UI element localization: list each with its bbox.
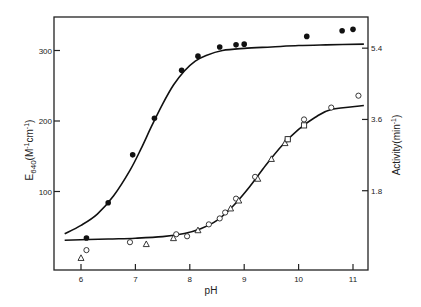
y2-axis-ticks: 1.83.65.4 [362, 44, 383, 196]
x-axis-ticks: 67891011 [79, 264, 358, 284]
x-axis-title: pH [205, 285, 218, 296]
y2-tick-label: 1.8 [371, 187, 383, 196]
filled-circle-marker [233, 42, 239, 48]
open-triangle-marker [78, 255, 84, 261]
y2-tick-label: 5.4 [371, 44, 383, 53]
open-square-marker [301, 123, 306, 128]
plot-frame [54, 17, 368, 270]
y-axis-title: E640(M-1cm-1) [23, 120, 38, 181]
y2-tick-label: 3.6 [371, 115, 383, 124]
filled-circle-marker [350, 27, 356, 33]
open-circle-marker [206, 222, 211, 227]
filled-circle-marker [339, 28, 345, 34]
x-tick-label: 11 [349, 275, 358, 284]
open-circle-marker [301, 117, 306, 122]
open-circle-marker [127, 240, 132, 245]
filled-circle-marker [241, 41, 247, 47]
fit-curves [65, 44, 364, 240]
filled-circle-marker [105, 200, 111, 206]
filled-circle-marker [304, 34, 310, 40]
filled-circle-marker [179, 67, 185, 73]
open-circle-marker [223, 210, 228, 215]
y-tick-label: 300 [39, 47, 53, 56]
filled-circle-marker [84, 235, 90, 241]
open-square-marker [285, 137, 290, 142]
filled-circle-marker [130, 152, 136, 158]
open-circle-marker [356, 93, 361, 98]
data-points [78, 27, 361, 261]
x-tick-label: 10 [294, 275, 303, 284]
open-circle-marker [329, 105, 334, 110]
open-triangle-marker [143, 241, 149, 247]
x-tick-label: 7 [133, 275, 138, 284]
x-tick-label: 9 [242, 275, 247, 284]
fit-curve [65, 106, 364, 241]
filled-circle-marker [152, 115, 158, 121]
x-tick-label: 6 [79, 275, 84, 284]
y-axis-ticks: 100200300 [39, 47, 60, 197]
fit-curve [65, 44, 364, 234]
x-tick-label: 8 [188, 275, 193, 284]
y2-axis-title: Activity(min-1) [390, 115, 402, 176]
open-circle-marker [184, 234, 189, 239]
filled-circle-marker [217, 44, 223, 50]
open-circle-marker [217, 216, 222, 221]
y-tick-label: 100 [39, 188, 53, 197]
chart: 67891011 100200300 1.83.65.4 pH E640(M-1… [0, 0, 421, 307]
open-circle-marker [84, 248, 89, 253]
filled-circle-marker [195, 53, 201, 59]
y-tick-label: 200 [39, 117, 53, 126]
